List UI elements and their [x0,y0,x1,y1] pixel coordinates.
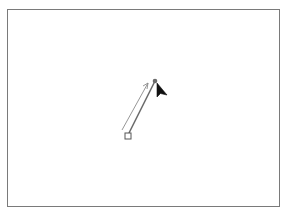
arrow-pointer-icon [157,83,167,97]
line-segment[interactable] [129,81,155,133]
end-handle-dot[interactable] [153,79,158,84]
direction-arrow-icon [122,83,148,130]
drawing-layer [0,0,289,212]
start-handle-square[interactable] [125,133,131,139]
